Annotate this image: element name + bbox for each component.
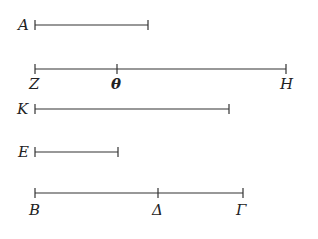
- label-e: E: [17, 143, 29, 161]
- segment-a: A: [16, 16, 148, 34]
- label-h: H: [279, 75, 294, 93]
- label-a: A: [16, 16, 29, 34]
- line-segments-diagram: A Z θ H K E B Δ Γ: [0, 0, 318, 239]
- label-z: Z: [28, 75, 40, 93]
- segment-zh: Z θ H: [28, 64, 294, 93]
- segment-bg: B Δ Γ: [28, 188, 247, 219]
- label-gamma: Γ: [235, 201, 247, 219]
- segment-k: K: [16, 100, 229, 118]
- segment-e: E: [17, 143, 118, 161]
- label-b: B: [28, 201, 40, 219]
- label-k: K: [16, 100, 29, 118]
- label-theta: θ: [111, 75, 121, 93]
- label-delta: Δ: [151, 201, 163, 219]
